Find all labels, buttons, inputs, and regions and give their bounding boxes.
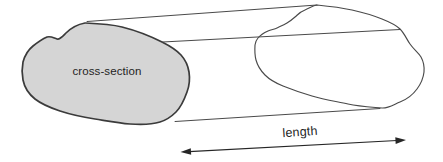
prism-edge-bottom [175, 109, 380, 122]
length-arrow-left-head-icon [181, 148, 192, 155]
cross-section-label: cross-section [72, 65, 141, 77]
prism-edge-top [87, 5, 317, 22]
diagram-canvas: cross-section length [0, 0, 443, 162]
length-label: length [282, 124, 318, 140]
prism-diagram: cross-section length [0, 0, 443, 162]
length-arrow-shaft [189, 141, 397, 152]
length-arrow-right-head-icon [395, 137, 406, 144]
length-dimension-arrow [181, 137, 407, 155]
far-end-face [255, 5, 424, 108]
